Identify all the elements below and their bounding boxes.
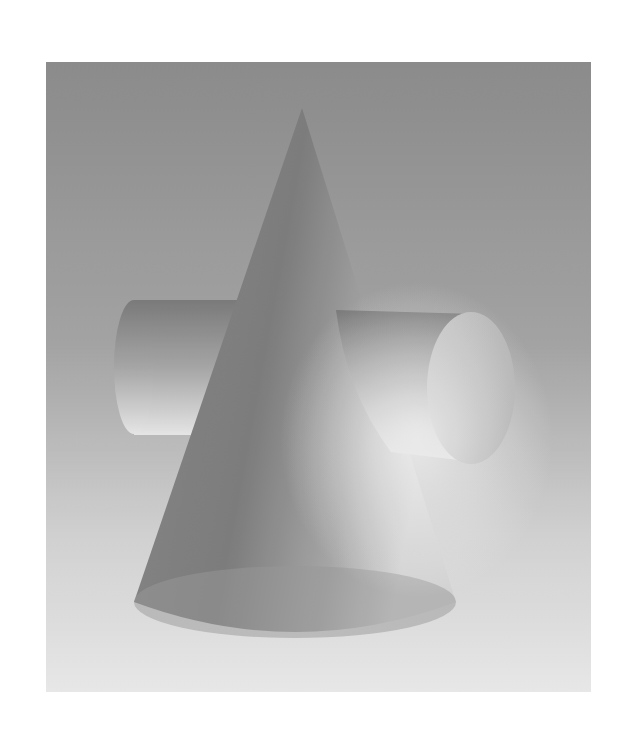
cone-cylinder-photo [46, 62, 591, 692]
image-caption: Cone pierced by a cylinder [0, 0, 1, 1]
